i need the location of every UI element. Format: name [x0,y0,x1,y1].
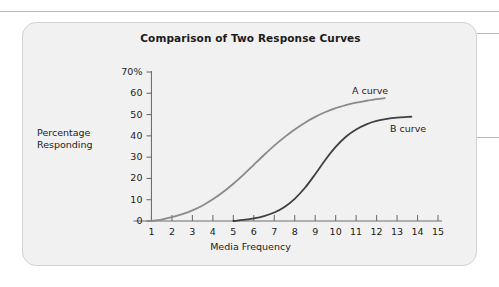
series-curve-b [233,117,411,221]
y-axis-tick-label: 30 [94,151,142,162]
plot-area: A curve B curve 010203040506070%12345678… [23,23,478,267]
series-curve-a [151,98,384,221]
y-axis-tick-label: 10 [94,194,142,205]
series-label-b-curve: B curve [390,123,426,134]
page-rule-top [0,11,499,12]
series-group [151,98,411,221]
page-rule-right-lower [477,137,499,138]
y-axis-tick-label: 20 [94,172,142,183]
y-axis-tick-label: 70% [94,66,142,77]
series-label-a-curve: A curve [352,85,388,96]
axes-group [133,71,442,221]
y-axis-tick-label: 50 [94,109,142,120]
figure-panel: Comparison of Two Response Curves Percen… [22,22,477,266]
y-axis-tick-label: 0 [94,215,142,226]
page-rule-right-upper [477,33,499,34]
x-axis-tick-label: 15 [426,226,450,237]
y-axis-tick-label: 60 [94,87,142,98]
y-axis-tick-label: 40 [94,130,142,141]
